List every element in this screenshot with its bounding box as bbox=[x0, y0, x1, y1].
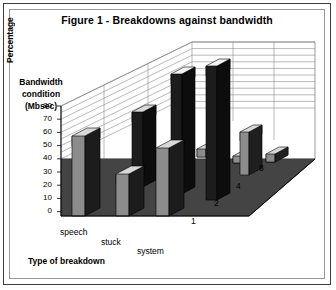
y-tick-60: 60 bbox=[34, 127, 52, 136]
depth-tick-8: 8 bbox=[259, 163, 264, 173]
y-tick-50: 50 bbox=[34, 140, 52, 149]
y-tick-20: 20 bbox=[34, 180, 52, 189]
category-label-speech: speech bbox=[60, 227, 87, 237]
y-axis-title: Percentage bbox=[4, 4, 16, 76]
figure-frame: Figure 1 - Breakdowns against bandwidth bbox=[3, 3, 331, 285]
category-label-stuck: stuck bbox=[101, 237, 121, 247]
y-tick-80: 80 bbox=[34, 101, 52, 110]
y-tick-40: 40 bbox=[34, 153, 52, 162]
y-tick-0: 0 bbox=[34, 206, 52, 215]
y-tick-10: 10 bbox=[34, 193, 52, 202]
category-label-system: system bbox=[137, 246, 164, 256]
depth-tick-1: 1 bbox=[191, 216, 196, 226]
y-tick-30: 30 bbox=[34, 167, 52, 176]
y-axis-ticks bbox=[57, 106, 61, 212]
depth-tick-4: 4 bbox=[236, 181, 241, 191]
chart-plot-area bbox=[4, 4, 336, 290]
depth-tick-2: 2 bbox=[214, 198, 219, 208]
y-tick-70: 70 bbox=[34, 114, 52, 123]
x-axis-title: Type of breakdown bbox=[28, 256, 105, 266]
